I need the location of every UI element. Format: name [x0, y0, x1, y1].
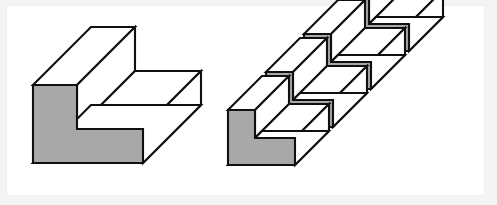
figure-staircase-l-blocks [228, 0, 443, 165]
figure-single-l-block [33, 27, 201, 163]
figure-illustration [0, 0, 497, 205]
figure-page [0, 0, 497, 205]
